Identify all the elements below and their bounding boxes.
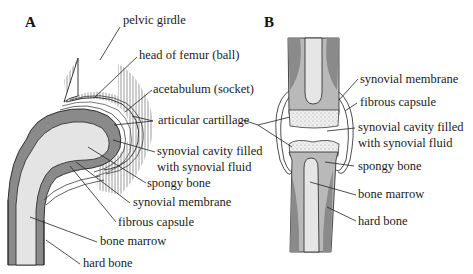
knee-joint-drawing <box>276 38 353 252</box>
label-acetabulum: acetabulum (socket) <box>153 82 254 96</box>
label-pelvic-girdle: pelvic girdle <box>123 13 186 27</box>
knee-femur-marrow <box>305 38 322 104</box>
label-synovial-cavity-b-1: synovial cavity filled <box>358 120 464 134</box>
label-bone-marrow-b: bone marrow <box>358 187 424 201</box>
panel-a-letter: A <box>25 14 36 31</box>
label-head-of-femur: head of femur (ball) <box>139 48 239 62</box>
label-hard-bone-a: hard bone <box>83 256 133 270</box>
label-articular-cartilage: articular cartillage <box>158 113 249 127</box>
knee-tibia-marrow <box>304 158 319 252</box>
label-synovial-cavity-a-2: with synovial fluid <box>157 160 251 174</box>
label-fibrous-capsule-b: fibrous capsule <box>360 95 436 109</box>
label-fibrous-capsule-a: fibrous capsule <box>118 215 194 229</box>
label-bone-marrow-a: bone marrow <box>100 234 166 248</box>
label-spongy-bone-a: spongy bone <box>147 176 211 190</box>
label-hard-bone-b: hard bone <box>358 214 408 228</box>
label-synovial-membrane-b: synovial membrane <box>360 72 458 86</box>
label-synovial-membrane-a: synovial membrane <box>133 195 231 209</box>
panel-b-letter: B <box>264 14 274 31</box>
label-spongy-bone-b: spongy bone <box>358 159 422 173</box>
label-synovial-cavity-b-2: with synovial fluid <box>358 136 452 150</box>
label-synovial-cavity-a-1: synovial cavity filled <box>157 144 263 158</box>
